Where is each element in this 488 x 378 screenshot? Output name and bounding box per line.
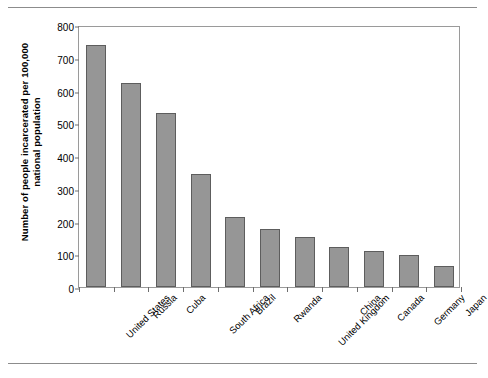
x-tick-label: Canada <box>395 292 426 323</box>
x-tick-label: United Kingdom <box>336 292 392 348</box>
bar <box>399 255 419 287</box>
bar <box>364 251 384 287</box>
bar <box>121 83 141 287</box>
bar <box>156 113 176 287</box>
y-axis-title: Number of people incarcerated per 100,00… <box>19 7 43 277</box>
bar <box>191 174 211 287</box>
x-axis-labels: United StatesRussiaCubaSouth AfricaBrazi… <box>78 292 460 362</box>
x-tick-label: Rwanda <box>291 292 323 324</box>
x-tick-label: Cuba <box>183 292 207 316</box>
bottom-rule <box>8 363 477 364</box>
bar <box>260 229 280 287</box>
x-tick-label: Japan <box>462 292 488 318</box>
x-tick-mark <box>461 287 462 292</box>
bar <box>225 217 245 287</box>
x-tick-label: Brazil <box>253 292 278 317</box>
bar <box>434 266 454 287</box>
bar <box>86 45 106 287</box>
top-rule <box>8 7 477 8</box>
plot-area: 0100200300400500600700800 <box>78 26 460 288</box>
bar <box>329 247 349 287</box>
bar <box>295 237 315 287</box>
bar-series <box>79 27 459 287</box>
